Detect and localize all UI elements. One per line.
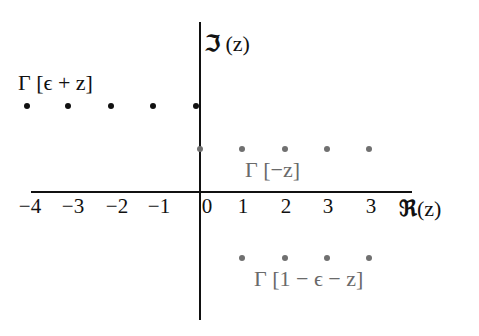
- real-part-symbol: ℜ: [399, 195, 417, 221]
- pole-dot: [366, 146, 372, 152]
- pole-dot: [65, 103, 71, 109]
- imaginary-axis: [199, 22, 201, 320]
- pole-dot: [239, 146, 245, 152]
- pole-dot: [366, 255, 372, 261]
- pole-dot: [108, 103, 114, 109]
- tick-label-pos1: 1: [238, 196, 249, 217]
- series-label-gamma-one-minus-eps-minus-z: Γ [1 − ϵ − z]: [254, 268, 363, 290]
- tick-label-neg2: −2: [106, 196, 128, 217]
- tick-label-pos3b: 3: [366, 196, 377, 217]
- pole-dot: [24, 103, 30, 109]
- tick-label-neg3: −3: [62, 196, 84, 217]
- pole-dot: [193, 103, 199, 109]
- real-axis: [31, 191, 412, 193]
- pole-dot: [239, 255, 245, 261]
- tick-label-pos3: 3: [323, 196, 334, 217]
- real-axis-arg: (z): [417, 196, 441, 221]
- tick-label-pos2: 2: [281, 196, 292, 217]
- complex-plane-diagram: ℑ (z) ℜ(z) −4 −3 −2 −1 0 1 2 3 3 Γ [ϵ + …: [0, 0, 479, 336]
- tick-label-neg1: −1: [148, 196, 170, 217]
- series-label-gamma-minus-z: Γ [−z]: [245, 159, 300, 181]
- series-label-gamma-eps-plus-z: Γ [ϵ + z]: [18, 72, 93, 94]
- imaginary-axis-label: ℑ (z): [205, 32, 250, 55]
- real-axis-label: ℜ(z): [399, 197, 441, 220]
- pole-dot: [282, 255, 288, 261]
- pole-dot: [150, 103, 156, 109]
- tick-label-neg4: −4: [19, 196, 41, 217]
- imaginary-axis-arg: (z): [226, 31, 250, 56]
- tick-label-zero: 0: [202, 196, 213, 217]
- pole-dot: [324, 146, 330, 152]
- pole-dot: [282, 146, 288, 152]
- pole-dot: [197, 146, 203, 152]
- imaginary-part-symbol: ℑ: [205, 30, 220, 56]
- pole-dot: [324, 255, 330, 261]
